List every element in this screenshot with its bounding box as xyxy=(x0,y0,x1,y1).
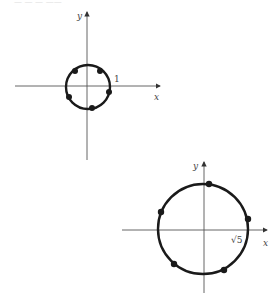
diagram-canvas: — — — —— x y 1 x y √5 xyxy=(0,0,280,300)
root-point xyxy=(171,261,177,267)
root-point xyxy=(72,68,78,74)
y-axis-label: y xyxy=(76,11,83,21)
radius-label: √5 xyxy=(231,235,243,245)
root-point xyxy=(89,105,95,111)
x-axis-label: x xyxy=(154,92,159,102)
x-axis-label: x xyxy=(263,238,268,248)
root-point xyxy=(66,94,72,100)
root-point xyxy=(206,181,212,187)
root-point xyxy=(158,209,164,215)
root-point xyxy=(97,68,103,74)
cutoff-text-fragment: — — — —— xyxy=(14,0,62,6)
root-point xyxy=(221,267,227,273)
figure-unit-circle: x y 1 xyxy=(15,11,160,160)
root-point xyxy=(106,89,112,95)
sqrt5-circle xyxy=(158,184,248,274)
figure-sqrt5-circle: x y √5 xyxy=(122,161,268,293)
root-point xyxy=(245,216,251,222)
y-axis-label: y xyxy=(192,161,199,171)
radius-label: 1 xyxy=(114,74,120,84)
